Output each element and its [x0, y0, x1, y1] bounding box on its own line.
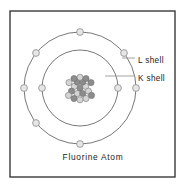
- nucleon-neutron: [77, 97, 83, 103]
- nucleon-proton: [88, 80, 94, 86]
- electron-k-shell: [115, 85, 122, 92]
- nucleon-neutron: [83, 95, 89, 101]
- electron-l-shell: [77, 29, 84, 36]
- nucleon-neutron: [66, 80, 72, 86]
- nucleon-proton: [88, 92, 94, 98]
- nucleon-proton: [83, 75, 89, 81]
- electron-k-shell: [39, 85, 46, 92]
- nucleon-proton: [77, 85, 83, 91]
- electron-l-shell: [33, 120, 40, 127]
- shell-label-l: L shell: [138, 56, 164, 65]
- nucleon-neutron: [77, 74, 83, 80]
- shell-label-k: K shell: [138, 74, 165, 83]
- nucleon-neutron: [65, 92, 71, 98]
- nucleon-proton: [71, 75, 77, 81]
- electron-l-shell: [21, 85, 28, 92]
- figure-caption: Fluorine Atom: [63, 152, 124, 162]
- electron-l-shell: [33, 50, 40, 57]
- electron-l-shell: [77, 141, 84, 148]
- electron-l-shell: [121, 50, 128, 57]
- electron-l-shell: [133, 85, 140, 92]
- atom-diagram-canvas: L shell K shell Fluorine Atom: [0, 0, 187, 189]
- nucleon-proton: [71, 95, 77, 101]
- atom-diagram-figure: L shell K shell Fluorine Atom: [0, 0, 187, 189]
